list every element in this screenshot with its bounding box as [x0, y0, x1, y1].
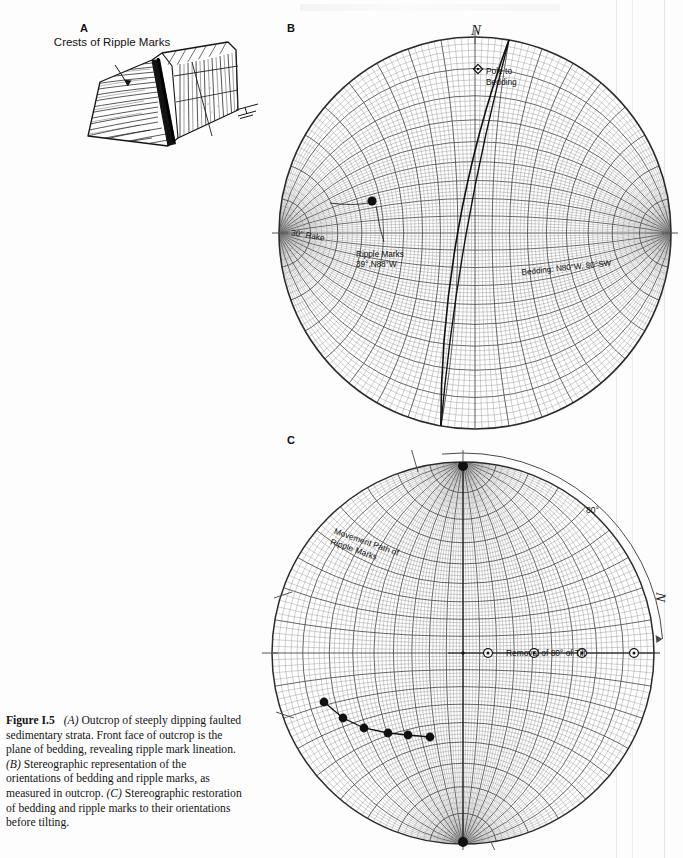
figure-caption: Figure I.5(A) Outcrop of steeply dipping… [6, 714, 242, 831]
removal-of-tilt-label: Removal of 80° of Tilt [506, 648, 586, 658]
figure-number: Figure I.5 [6, 714, 55, 727]
stereonet-c-plot [262, 450, 674, 850]
svg-text:N: N [470, 22, 482, 38]
panel-letter-c: C [287, 434, 295, 446]
pole-to-bedding-label: Pole to Bedding [486, 66, 517, 87]
svg-text:N: N [653, 591, 669, 603]
ripple-marks-label: Ripple Marks 39°,N88°W [356, 250, 404, 270]
strike-dip-icon [236, 104, 258, 119]
tilt-arc-label: 80° [586, 505, 599, 515]
panel-a-outcrop-illustration: Crests of Ripple Marks [40, 18, 270, 188]
stereonet-c: N [262, 450, 674, 850]
north-arrow-icon: N [463, 18, 489, 42]
crests-of-ripple-marks-label: Crests of Ripple Marks [52, 36, 172, 50]
north-arrow-icon: N [648, 584, 674, 610]
stereonet-b: N [272, 30, 678, 434]
stereonet-b-plot [272, 30, 678, 434]
scan-header-smudge [300, 4, 560, 11]
caption-body: (A) Outcrop of steeply dipping faulted s… [6, 714, 242, 829]
